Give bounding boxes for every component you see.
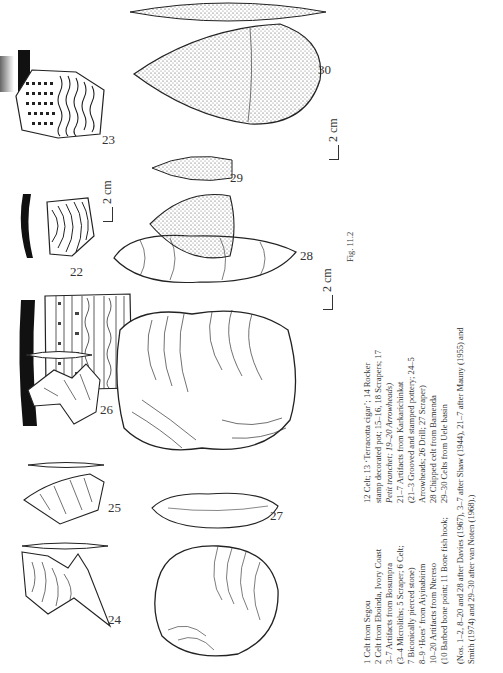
artifact-27-scraper	[148, 540, 282, 660]
artifact-27-profile	[148, 488, 282, 532]
artifact-25-profile	[26, 460, 106, 470]
scale-bar-label: 2 cm	[100, 180, 114, 204]
artifact-23-sherd	[14, 68, 106, 140]
caption-line: 28 Chipped celt from Bamenda	[428, 350, 439, 503]
caption-line: 2 Celt from Eboinda, Ivory Coast	[373, 517, 384, 664]
caption-line: 21–7 Artifacts from Karkarichinkat	[395, 350, 406, 503]
artifact-label-27: 27	[270, 508, 283, 524]
caption-line: Petit tranchet; 19–20 Arrowheads)	[384, 350, 395, 503]
caption-line: (21–3 Grooved and stamped pottery; 24–5	[406, 350, 417, 503]
caption-line: stamp decorated pot; 15–16, 18 Scrapers;…	[373, 350, 384, 503]
caption-line: 7 Biconically pierced stone)	[406, 517, 417, 664]
scan-shadow	[0, 56, 14, 92]
artifact-22-sherd-profile	[15, 192, 39, 260]
caption-line: 3–7 Artifacts from Bosumpra	[384, 517, 395, 664]
artifact-29-celt	[146, 184, 236, 268]
artifact-label-30: 30	[318, 62, 331, 78]
caption-line: Arrowheads; 26 Drill; 27 Scraper)	[417, 350, 428, 503]
artifact-26-profile	[24, 348, 94, 362]
caption-line: 12 Celt; 13 ‘Terracotta cigar’; 14 Rocke…	[362, 350, 373, 503]
scale-bar-icon	[323, 295, 333, 310]
caption-source-line: Smith (1974) and 29–30 after van Noten (…	[466, 64, 477, 664]
artifact-28-chipped-celt	[112, 300, 302, 460]
caption-left-column: 1 Celt from Segou 2 Celt from Eboinda, I…	[362, 517, 450, 664]
artifact-29-profile	[150, 150, 234, 186]
artifact-label-22: 22	[70, 264, 83, 280]
artifact-24-profile	[20, 540, 110, 552]
caption-sources: (Nos. 1–2, 8–20 and 28 after Davies (196…	[455, 64, 477, 664]
artifact-label-23: 23	[102, 132, 115, 148]
scale-bar-celt-28: 2 cm	[320, 268, 335, 310]
scale-bar-celt-30: 2 cm	[326, 118, 341, 160]
caption-line: 1 Celt from Segou	[362, 517, 373, 664]
scale-bar-icon	[103, 207, 113, 222]
scale-bar-label: 2 cm	[326, 118, 340, 142]
artifact-30-profile	[128, 0, 328, 24]
caption-line: 29–30 Celts from Uele basin	[439, 350, 450, 503]
scale-bar-small: 2 cm	[100, 180, 115, 222]
caption-right-column: 12 Celt; 13 ‘Terracotta cigar’; 14 Rocke…	[362, 350, 450, 503]
artifact-label-29: 29	[230, 170, 243, 186]
artifact-label-28: 28	[300, 248, 313, 264]
caption-line: (3–4 Microliths; 5 Scraper; 6 Celt;	[395, 517, 406, 664]
scale-bar-icon	[329, 145, 339, 160]
artifact-22-sherd	[44, 196, 96, 258]
artifact-30-celt	[130, 20, 326, 130]
artifact-26-drill	[24, 360, 104, 428]
scale-bar-label: 2 cm	[320, 268, 334, 292]
caption-line: 10–20 Artifacts from Ntereso	[428, 517, 439, 664]
caption-source-line: (Nos. 1–2, 8–20 and 28 after Davies (196…	[455, 64, 466, 664]
artifact-25-arrowhead	[20, 470, 108, 530]
figure-label: Fig. 11.2	[345, 232, 355, 262]
artifact-label-24: 24	[108, 612, 121, 628]
caption-block: 1 Celt from Segou 2 Celt from Eboinda, I…	[362, 64, 477, 664]
caption-line: (10 Barbed bone point; 11 Bone fish hook…	[439, 517, 450, 664]
artifact-label-25: 25	[108, 500, 121, 516]
artifact-24-arrowhead	[18, 548, 113, 628]
caption-line: 8–9 ‘Hoes’ from Aiyinabirim	[417, 517, 428, 664]
